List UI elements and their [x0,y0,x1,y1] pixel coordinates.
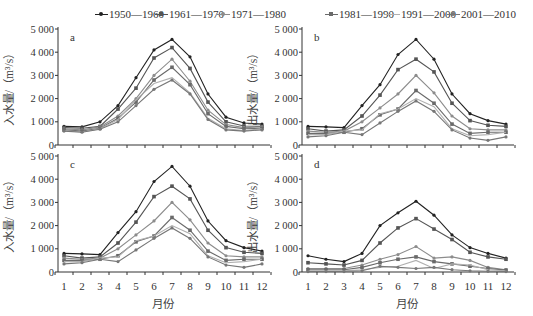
y-tick-label: 0 [293,140,298,151]
x-tick-label: 11 [483,280,494,292]
y-tick-label: 1 000 [30,116,54,127]
x-tick-label: 10 [465,280,477,292]
x-tick-label: 4 [115,280,121,292]
x-tick-label: 8 [187,280,193,292]
panel-a: 01 0002 0003 0004 0005 000入水量/（m³/s）a [3,24,271,151]
y-tick-label: 5 000 [30,24,54,35]
x-tick-label: 7 [169,280,175,292]
x-axis-title: 月份 [152,298,175,310]
y-tick-label: 2 000 [274,93,298,104]
series-line [308,39,506,127]
series-line [64,228,262,268]
y-tick-label: 4 000 [274,47,298,58]
y-tick-label: 0 [293,267,298,278]
y-tick-label: 4 000 [30,47,54,58]
series-line [64,48,262,129]
y-tick-label: 5 000 [274,24,298,35]
series-line [64,80,262,132]
y-axis-title: 入水量/（m³/s） [3,175,15,253]
x-tick-label: 9 [205,280,211,292]
series-line [64,166,262,254]
chart-canvas: 01 0002 0003 0004 0005 000入水量/（m³/s）a01 … [0,0,533,316]
x-tick-label: 3 [97,280,103,292]
y-tick-label: 3 000 [30,197,54,208]
y-tick-label: 0 [49,267,54,278]
series-line [308,59,506,131]
x-axis-title: 月份 [396,298,419,310]
y-tick-label: 1 000 [274,243,298,254]
series-line [308,201,506,261]
y-tick-label: 2 000 [274,220,298,231]
y-axis-title: 出水量/（m³/s） [246,175,259,253]
y-tick-label: 0 [49,140,54,151]
x-tick-label: 2 [323,280,329,292]
x-tick-label: 1 [305,280,311,292]
y-tick-label: 2 000 [30,93,54,104]
x-tick-label: 2 [79,280,85,292]
x-tick-label: 3 [341,280,347,292]
x-tick-label: 6 [151,280,157,292]
series-line [64,67,262,131]
x-tick-label: 4 [359,280,365,292]
panel-b: 01 0002 0003 0004 0005 000出水量/（m³/s）b [246,24,515,151]
x-tick-label: 9 [449,280,455,292]
y-tick-label: 3 000 [30,70,54,81]
x-tick-label: 5 [133,280,139,292]
x-tick-label: 5 [377,280,383,292]
x-tick-label: 7 [413,280,419,292]
y-tick-label: 2 000 [30,220,54,231]
panel-c: 01 0002 0003 0004 0005 00012345678910111… [3,151,271,311]
series-line [64,186,262,258]
y-tick-label: 5 000 [274,151,298,162]
y-tick-label: 3 000 [274,197,298,208]
y-tick-label: 4 000 [274,174,298,185]
panel-label: c [70,158,75,170]
x-tick-label: 12 [501,280,512,292]
x-tick-label: 12 [257,280,268,292]
x-tick-label: 8 [431,280,437,292]
y-tick-label: 1 000 [274,116,298,127]
x-tick-label: 10 [221,280,233,292]
x-tick-label: 11 [239,280,250,292]
x-tick-label: 6 [395,280,401,292]
y-tick-label: 4 000 [30,174,54,185]
y-axis-title: 出水量/（m³/s） [246,48,259,126]
panel-d: 01 0002 0003 0004 0005 00012345678910111… [246,151,515,311]
panel-label: b [314,31,320,43]
panel-label: a [70,31,75,43]
y-tick-label: 1 000 [30,243,54,254]
y-axis-title: 入水量/（m³/s） [3,48,15,126]
x-tick-label: 1 [61,280,67,292]
panel-label: d [314,158,320,170]
y-tick-label: 5 000 [30,151,54,162]
series-line [308,101,506,140]
y-tick-label: 3 000 [274,70,298,81]
